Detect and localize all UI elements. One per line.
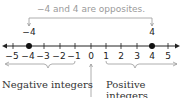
positive-integers-label: Positive integers xyxy=(106,79,182,98)
tick-label: 0 xyxy=(88,51,94,61)
tick-label: −1 xyxy=(67,51,80,61)
tick-label: 3 xyxy=(134,51,140,61)
point-neg4 xyxy=(26,43,32,49)
tick-label: 5 xyxy=(165,51,171,61)
tick-label: 4 xyxy=(149,51,155,61)
tick-label: −2 xyxy=(52,51,65,61)
tick-label: 1 xyxy=(103,51,109,61)
point-label-4: 4 xyxy=(149,27,155,37)
diagram-title: −4 and 4 are opposites. xyxy=(0,4,182,14)
tick-label: −4 xyxy=(21,51,34,61)
tick-label: 2 xyxy=(118,51,124,61)
point-label-neg4: −4 xyxy=(22,27,35,37)
negative-bracket xyxy=(5,61,75,68)
negative-integers-label: Negative integers xyxy=(2,79,93,90)
number-line-diagram: −4 and 4 are opposites. −4 4 −5 −4 −3 −2… xyxy=(0,0,182,98)
tick-label: −5 xyxy=(5,51,18,61)
opposites-bracket xyxy=(28,18,154,26)
left-arrow-icon xyxy=(2,44,7,49)
tick-label: −3 xyxy=(36,51,49,61)
point-4 xyxy=(149,43,155,49)
positive-bracket xyxy=(106,61,177,68)
right-arrow-icon xyxy=(175,44,180,49)
